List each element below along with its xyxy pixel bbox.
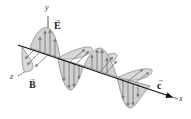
- em-wave-diagram: y x z → E → B → c: [0, 0, 191, 119]
- vector-arrow-icon: →: [29, 76, 36, 83]
- vector-arrow-icon: →: [157, 77, 164, 84]
- y-axis-label: y: [45, 4, 49, 12]
- magnetic-field-label: → B: [29, 80, 36, 90]
- em-wave-figure: [0, 0, 191, 119]
- z-axis-label: z: [10, 73, 13, 81]
- e-field-lobes: [30, 28, 150, 108]
- x-axis-tail: [172, 97, 178, 99]
- velocity-label: → c: [157, 81, 161, 91]
- x-axis-label: x: [179, 95, 183, 103]
- electric-field-label: → E: [54, 21, 61, 31]
- vector-arrow-icon: →: [54, 17, 61, 24]
